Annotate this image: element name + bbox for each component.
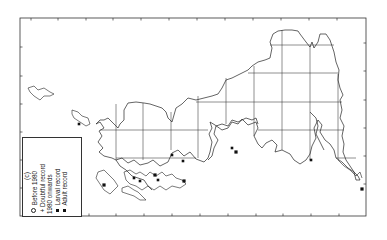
larval-record-marker xyxy=(78,123,81,126)
legend-item-doubtful: +Doubtful record xyxy=(39,138,46,214)
island-large-south xyxy=(96,170,118,194)
legend-item-larval: Larval record xyxy=(54,138,61,214)
adult-record-marker xyxy=(153,173,156,176)
legend-item-adult: Adult record xyxy=(61,138,68,214)
open-circle-icon xyxy=(31,208,36,213)
legend-title: (c) xyxy=(23,138,30,214)
island-long-south xyxy=(122,186,146,200)
filled-square-icon xyxy=(63,209,66,212)
larval-record-marker xyxy=(171,154,174,157)
coastline-mainland xyxy=(96,30,360,180)
legend: (c) Before 1980 +Doubtful record 1980 on… xyxy=(22,137,82,217)
adult-record-marker xyxy=(234,150,237,153)
larval-record-marker xyxy=(157,179,160,182)
coastline-inlet xyxy=(310,112,324,150)
larval-record-marker xyxy=(231,147,234,150)
larval-record-marker xyxy=(139,180,142,183)
larval-record-marker xyxy=(310,159,313,162)
larval-record-marker xyxy=(133,177,136,180)
grid-lines xyxy=(100,30,356,160)
filled-square-icon xyxy=(56,209,59,212)
legend-item-1980-onwards: 1980 onwards xyxy=(46,138,53,214)
island-group-west-b xyxy=(72,110,90,126)
coastline-isles xyxy=(124,170,186,190)
adult-record-marker xyxy=(360,187,363,190)
island-group-west-a xyxy=(28,86,54,100)
legend-content: (c) Before 1980 +Doubtful record 1980 on… xyxy=(23,138,81,216)
adult-record-marker xyxy=(102,183,105,186)
adult-record-marker xyxy=(182,179,185,182)
plus-icon: + xyxy=(39,207,46,214)
larval-record-marker xyxy=(182,160,185,163)
legend-item-before-1980: Before 1980 xyxy=(31,138,38,214)
